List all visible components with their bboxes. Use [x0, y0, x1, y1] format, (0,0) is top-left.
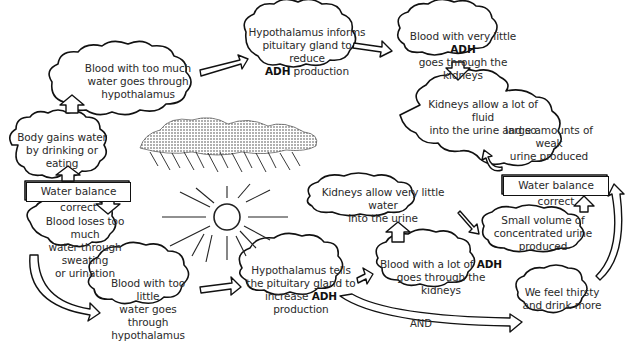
node-text: Small volume of: [478, 214, 608, 227]
adh-term: ADH: [477, 258, 502, 270]
node-thirsty: We feel thirsty and drink more: [520, 286, 604, 312]
node-text: Blood with too much: [58, 62, 218, 75]
connector-and-label: AND: [410, 318, 432, 329]
rain-cloud-illustration: [140, 118, 317, 172]
node-text: goes through the kidneys: [380, 271, 502, 297]
node-kidneys-little: Kidneys allow very little water into the…: [308, 186, 458, 225]
node-text: Blood with too little: [98, 277, 198, 303]
node-small-volume: Small volume of concentrated urine produ…: [478, 214, 608, 253]
node-text: Blood with a lot of ADH: [380, 258, 502, 271]
node-text: hypothalamus: [98, 329, 198, 342]
node-text: urine produced: [496, 150, 602, 163]
node-text: Kidneys allow very little water: [308, 186, 458, 212]
node-text: Blood with very little: [410, 30, 516, 42]
node-text: Blood loses too much: [32, 215, 138, 241]
adh-term: ADH: [265, 65, 290, 77]
node-text: Body gains water: [12, 131, 112, 144]
node-too-much-water: Blood with too much water goes through h…: [58, 62, 218, 101]
node-text: Kidneys allow a lot of fluid: [418, 98, 548, 124]
node-text: Blood with a lot of: [380, 258, 477, 270]
node-text: and drink more: [520, 299, 604, 312]
node-text: concentrated urine produced: [478, 227, 608, 253]
adh-water-balance-diagram: Body gains water by drinking or eating B…: [0, 0, 632, 346]
node-text: by drinking or eating: [12, 144, 112, 170]
node-text: Hypothalamus informs: [244, 26, 370, 39]
node-lot-adh: Blood with a lot of ADH goes through the…: [380, 258, 502, 297]
node-kidneys-lot-b: large amounts of weak urine produced: [496, 124, 602, 163]
node-text: pituitary gland to reduce: [244, 39, 370, 65]
node-hypo-increase: Hypothalamus tells the pituitary gland t…: [240, 264, 362, 316]
adh-term: ADH: [312, 290, 337, 302]
node-text: Hypothalamus tells: [240, 264, 362, 277]
node-too-little-water: Blood with too little water goes through…: [98, 277, 198, 342]
node-text: We feel thirsty: [520, 286, 604, 299]
node-text: water goes through: [98, 303, 198, 329]
adh-term: ADH: [450, 43, 475, 55]
node-text: goes through the kidneys: [402, 56, 524, 82]
box-water-balance-right: Water balance correct: [503, 176, 609, 196]
node-blood-loses: Blood loses too much water through sweat…: [32, 215, 138, 280]
node-text: increase: [265, 290, 312, 302]
node-text: Blood with very little ADH: [402, 30, 524, 56]
node-text: water through sweating: [32, 241, 138, 267]
node-text: production: [290, 65, 349, 77]
node-text: water goes through hypothalamus: [58, 75, 218, 101]
box-water-balance-left: Water balance correct: [26, 182, 131, 202]
node-little-adh: Blood with very little ADH goes through …: [402, 30, 524, 82]
node-text: production: [273, 303, 328, 315]
node-hypo-reduce: Hypothalamus informs pituitary gland to …: [244, 26, 370, 78]
node-text: large amounts of weak: [496, 124, 602, 150]
node-text: ADH production: [244, 65, 370, 78]
node-text: increase ADH production: [240, 290, 362, 316]
node-text: into the urine: [308, 212, 458, 225]
node-text: the pituitary gland to: [240, 277, 362, 290]
node-body-gains: Body gains water by drinking or eating: [12, 131, 112, 170]
